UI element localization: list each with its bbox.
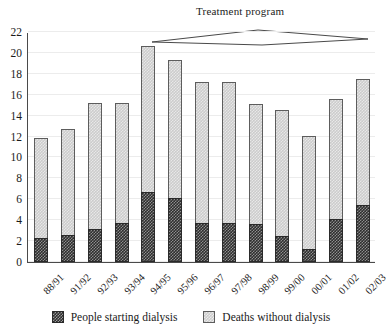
y-axis: 0246810121416182022 [0,28,22,268]
bar-segment-deaths-without-dialysis [168,60,182,198]
x-axis-tick-02-03: 02/03 [363,272,387,297]
bar-segment-deaths-without-dialysis [275,110,289,235]
x-axis-tick-01-02: 01/02 [336,272,361,297]
x-axis-tick-93-94: 93/94 [122,272,147,297]
x-axis-tick-99-00: 99/00 [282,272,307,297]
bar-segment-deaths-without-dialysis [141,46,155,192]
bar-92-93[interactable] [88,103,102,262]
dark-checker-swatch [52,311,64,323]
bar-segment-deaths-without-dialysis [61,129,75,235]
bar-91-92[interactable] [61,129,75,262]
bar-segment-deaths-without-dialysis [34,138,48,238]
x-axis-tick-92-93: 92/93 [95,272,120,297]
gridline [28,52,375,53]
gridline [28,31,375,32]
plot-area [27,33,375,263]
bar-99-00[interactable] [275,110,289,262]
bar-96-97[interactable] [195,82,209,262]
bar-segment-deaths-without-dialysis [329,99,343,219]
bar-segment-deaths-without-dialysis [115,103,129,223]
bar-97-98[interactable] [222,82,236,262]
x-axis-tick-88-91: 88/91 [41,272,66,297]
legend-item-starting-dialysis[interactable]: People starting dialysis [52,311,178,323]
bar-segment-deaths-without-dialysis [88,103,102,228]
legend-item-deaths-without-dialysis[interactable]: Deaths without dialysis [203,311,330,323]
x-axis: 88/9191/9292/9393/9494/9595/9696/9797/98… [27,266,375,306]
bar-segment-deaths-without-dialysis [195,82,209,223]
x-axis-tick-00-01: 00/01 [309,272,334,297]
bar-94-95[interactable] [141,46,155,262]
bar-segment-starting-dialysis [195,223,209,262]
bar-segment-starting-dialysis [34,238,48,262]
bar-segment-deaths-without-dialysis [302,136,316,250]
bar-segment-starting-dialysis [61,235,75,262]
bar-02-03[interactable] [356,79,370,262]
bar-segment-starting-dialysis [168,198,182,262]
bar-segment-starting-dialysis [275,236,289,262]
x-axis-tick-94-95: 94/95 [149,272,174,297]
bar-segment-deaths-without-dialysis [222,82,236,223]
x-axis-tick-96-97: 96/97 [202,272,227,297]
x-axis-tick-95-96: 95/96 [175,272,200,297]
bar-segment-starting-dialysis [249,224,263,262]
bar-segment-starting-dialysis [115,223,129,262]
chart-legend: People starting dialysisDeaths without d… [0,311,382,323]
treatment-program-annotation-label: Treatment program [196,5,284,17]
legend-label: People starting dialysis [71,311,178,323]
bar-segment-starting-dialysis [329,219,343,262]
bar-93-94[interactable] [115,103,129,262]
bar-98-99[interactable] [249,104,263,262]
bar-segment-starting-dialysis [222,223,236,262]
bar-segment-deaths-without-dialysis [249,104,263,224]
bar-00-01[interactable] [302,136,316,262]
legend-label: Deaths without dialysis [222,311,330,323]
bar-segment-starting-dialysis [141,192,155,262]
bar-95-96[interactable] [168,60,182,262]
x-axis-tick-98-99: 98/99 [256,272,281,297]
light-checker-swatch [203,311,215,323]
bar-segment-starting-dialysis [88,229,102,262]
bar-segment-deaths-without-dialysis [356,79,370,204]
bar-segment-starting-dialysis [302,249,316,262]
bar-01-02[interactable] [329,99,343,262]
bar-segment-starting-dialysis [356,205,370,263]
bar-88-91[interactable] [34,138,48,262]
x-axis-tick-91-92: 91/92 [68,272,93,297]
gridline [28,73,375,74]
x-axis-tick-97-98: 97/98 [229,272,254,297]
